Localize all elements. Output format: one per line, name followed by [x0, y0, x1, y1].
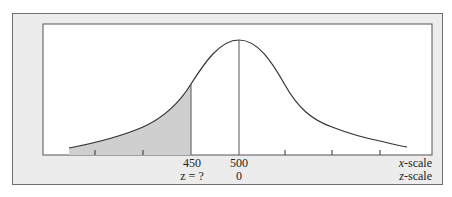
- normal-curve-plot: [0, 0, 452, 197]
- z-scale-label: z-scale: [399, 170, 432, 183]
- z-scale-word: -scale: [404, 169, 432, 183]
- z-tick-unknown: z = ?: [180, 170, 203, 183]
- x-scale-word: -scale: [404, 156, 432, 170]
- plot-area: [43, 24, 432, 155]
- z-tick-0: 0: [236, 170, 242, 183]
